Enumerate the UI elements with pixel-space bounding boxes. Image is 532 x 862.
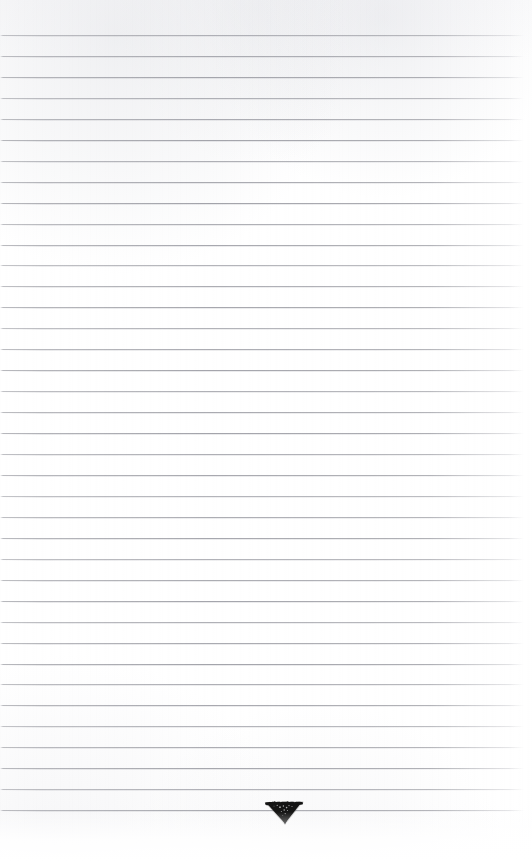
ruled-line [0,475,524,476]
ruled-line [0,789,524,790]
ruled-line [0,664,524,665]
ruled-line [0,328,524,329]
ruled-line [0,622,524,623]
bottom-blank-margin [0,812,532,862]
ruled-line [0,705,524,706]
ruled-line [0,265,524,266]
ruled-line [0,454,524,455]
ruled-line [0,56,524,57]
ruled-line [0,433,524,434]
ruled-line [0,349,524,350]
ruled-line [0,726,524,727]
ruled-line [0,412,524,413]
ruled-line [0,245,524,246]
ruled-line [0,643,524,644]
ruled-line [0,747,524,748]
ruled-line [0,119,524,120]
ruled-line [0,538,524,539]
ruled-line [0,307,524,308]
ruled-line [0,182,524,183]
ruled-line [0,559,524,560]
notebook-page [0,0,532,862]
ruled-line [0,580,524,581]
ruled-line [0,224,524,225]
ruled-line [0,391,524,392]
ruled-line [0,517,524,518]
ruled-line [0,768,524,769]
ruled-line [0,370,524,371]
ruled-line [0,286,524,287]
ruled-line [0,161,524,162]
ruled-line [0,98,524,99]
ruled-line [0,496,524,497]
ruled-line [0,810,524,811]
ruled-line [0,684,524,685]
ruled-line [0,601,524,602]
ruled-line [0,203,524,204]
ruled-line [0,140,524,141]
ruled-line [0,35,524,36]
ruled-lines-group [0,0,532,862]
ruled-line [0,77,524,78]
